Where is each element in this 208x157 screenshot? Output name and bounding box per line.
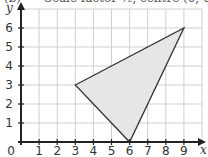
y-tick-label: 1: [5, 116, 13, 130]
x-tick-label: 1: [35, 144, 43, 157]
y-axis-arrow-icon: [17, 2, 25, 10]
x-tick-label: 3: [71, 144, 79, 157]
y-axis-label: y: [5, 1, 13, 15]
x-tick-label: 9: [180, 144, 188, 157]
x-axis-label: x: [200, 143, 207, 157]
x-tick-label: 8: [162, 144, 170, 157]
y-tick-label: 6: [5, 21, 13, 35]
y-tick-label: 2: [5, 97, 13, 111]
y-tick-label: 5: [5, 40, 13, 54]
x-tick-label: 2: [53, 144, 61, 157]
x-tick-label: 7: [144, 144, 152, 157]
y-tick-label: 3: [5, 78, 13, 92]
coordinate-grid: 0123456789123456xy: [0, 0, 208, 157]
x-tick-label: 5: [108, 144, 116, 157]
x-tick-label: 4: [90, 144, 98, 157]
x-tick-label: 6: [126, 144, 134, 157]
y-tick-label: 4: [5, 59, 13, 73]
x-tick-label: 0: [7, 144, 15, 157]
